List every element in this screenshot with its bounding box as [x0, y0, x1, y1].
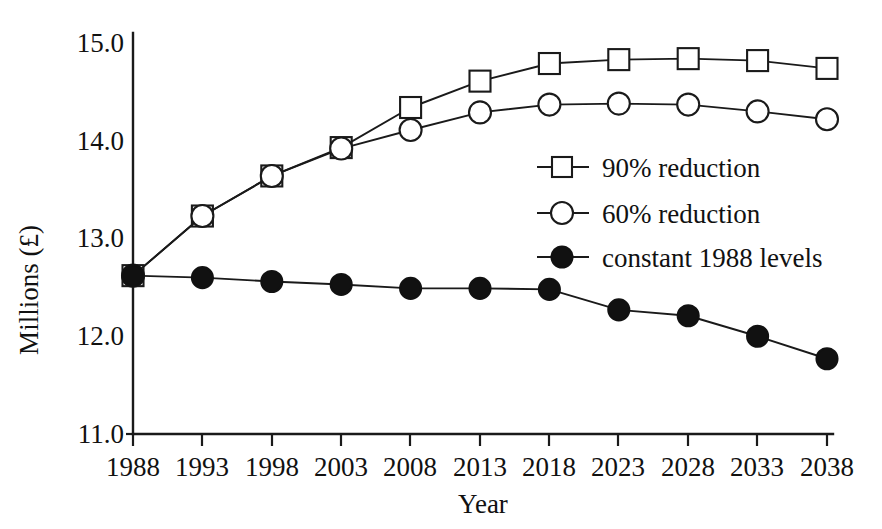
open-circle-icon [551, 202, 573, 224]
y-axis-tick-labels: 15.0 14.0 13.0 12.0 11.0 [77, 28, 124, 449]
x-axis-ticks [133, 434, 827, 446]
data-point-square [747, 50, 768, 71]
x-tick-label: 1998 [245, 452, 299, 482]
data-point-filled-circle [261, 271, 282, 292]
data-point-square [539, 53, 560, 74]
chart-figure: Millions (£) 15.0 14.0 13.0 12.0 11.0 [0, 0, 882, 529]
legend-entry-90-reduction[interactable]: 90% reduction [537, 153, 761, 183]
data-point-circle [747, 100, 769, 122]
data-point-circle [261, 165, 283, 187]
chart-legend: 90% reduction 60% reduction constant 198… [537, 153, 822, 273]
data-point-circle [191, 205, 213, 227]
y-axis-title: Millions (£) [14, 225, 44, 355]
data-point-circle [330, 138, 352, 160]
data-point-filled-circle [747, 326, 768, 347]
x-axis-tick-labels: 1988 1993 1998 2003 2008 2013 2018 2023 … [106, 452, 854, 482]
data-point-filled-circle [817, 348, 838, 369]
data-point-square [678, 48, 699, 69]
x-axis-title: Year [458, 489, 508, 519]
x-tick-label: 1988 [106, 452, 160, 482]
open-square-icon [552, 157, 572, 177]
x-tick-label: 2038 [800, 452, 854, 482]
y-tick-label: 15.0 [77, 28, 124, 58]
x-tick-label: 2013 [453, 452, 507, 482]
data-point-circle [400, 119, 422, 141]
data-point-filled-circle [123, 265, 144, 286]
data-point-filled-circle [192, 267, 213, 288]
legend-entry-60-reduction[interactable]: 60% reduction [537, 199, 761, 229]
data-point-filled-circle [470, 278, 491, 299]
data-point-filled-circle [539, 279, 560, 300]
series-constant-1988-levels [123, 265, 838, 369]
data-point-circle [538, 94, 560, 116]
data-point-circle [608, 93, 630, 115]
data-point-circle [677, 94, 699, 116]
legend-label: constant 1988 levels [602, 243, 822, 273]
y-tick-label: 14.0 [77, 126, 124, 156]
data-point-filled-circle [678, 305, 699, 326]
x-tick-label: 2028 [661, 452, 715, 482]
x-tick-label: 1993 [175, 452, 229, 482]
x-tick-label: 2023 [591, 452, 645, 482]
legend-label: 90% reduction [602, 153, 761, 183]
data-point-square [470, 71, 491, 92]
data-point-filled-circle [608, 299, 629, 320]
line-chart: Millions (£) 15.0 14.0 13.0 12.0 11.0 [0, 0, 882, 529]
y-tick-label: 12.0 [77, 321, 124, 351]
data-point-circle [469, 101, 491, 123]
data-point-filled-circle [400, 278, 421, 299]
data-point-circle [816, 108, 838, 130]
x-tick-label: 2003 [314, 452, 368, 482]
x-tick-label: 2018 [522, 452, 576, 482]
data-point-square [817, 58, 838, 79]
data-point-filled-circle [331, 274, 352, 295]
x-tick-label: 2008 [383, 452, 437, 482]
data-point-square [608, 49, 629, 70]
legend-entry-constant-1988-levels[interactable]: constant 1988 levels [537, 243, 822, 273]
y-tick-label: 11.0 [78, 419, 124, 449]
data-point-square [400, 97, 421, 118]
filled-circle-icon [552, 247, 573, 268]
y-tick-label: 13.0 [77, 223, 124, 253]
x-tick-label: 2033 [730, 452, 784, 482]
legend-label: 60% reduction [602, 199, 761, 229]
